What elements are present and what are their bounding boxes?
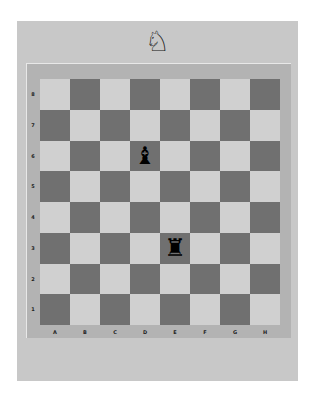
rank-label: 6 bbox=[29, 153, 37, 159]
file-label: E bbox=[160, 329, 190, 335]
rank-label: 4 bbox=[29, 214, 37, 220]
file-label: B bbox=[70, 329, 100, 335]
square-a3[interactable] bbox=[40, 233, 70, 264]
file-label: C bbox=[100, 329, 130, 335]
square-h7[interactable] bbox=[250, 110, 280, 141]
square-h1[interactable] bbox=[250, 294, 280, 325]
square-f2[interactable] bbox=[190, 264, 220, 295]
square-b3[interactable] bbox=[70, 233, 100, 264]
square-a5[interactable] bbox=[40, 171, 70, 202]
square-e3[interactable]: ♜ bbox=[160, 233, 190, 264]
square-f6[interactable] bbox=[190, 141, 220, 172]
square-c7[interactable] bbox=[100, 110, 130, 141]
square-d2[interactable] bbox=[130, 264, 160, 295]
square-e7[interactable] bbox=[160, 110, 190, 141]
square-f8[interactable] bbox=[190, 79, 220, 110]
square-b7[interactable] bbox=[70, 110, 100, 141]
square-e5[interactable] bbox=[160, 171, 190, 202]
square-a8[interactable] bbox=[40, 79, 70, 110]
square-g2[interactable] bbox=[220, 264, 250, 295]
square-e6[interactable] bbox=[160, 141, 190, 172]
file-label: D bbox=[130, 329, 160, 335]
square-g1[interactable] bbox=[220, 294, 250, 325]
board-frame: ♝♜ 87654321ABCDEFGH bbox=[26, 63, 291, 338]
square-e4[interactable] bbox=[160, 202, 190, 233]
square-h3[interactable] bbox=[250, 233, 280, 264]
square-e8[interactable] bbox=[160, 79, 190, 110]
rank-label: 3 bbox=[29, 245, 37, 251]
square-g6[interactable] bbox=[220, 141, 250, 172]
square-e1[interactable] bbox=[160, 294, 190, 325]
square-f5[interactable] bbox=[190, 171, 220, 202]
square-g7[interactable] bbox=[220, 110, 250, 141]
square-h4[interactable] bbox=[250, 202, 280, 233]
square-a1[interactable] bbox=[40, 294, 70, 325]
square-a4[interactable] bbox=[40, 202, 70, 233]
square-b4[interactable] bbox=[70, 202, 100, 233]
rank-label: 8 bbox=[29, 91, 37, 97]
square-a7[interactable] bbox=[40, 110, 70, 141]
black-bishop-icon[interactable]: ♝ bbox=[134, 144, 156, 168]
file-label: A bbox=[40, 329, 70, 335]
square-b2[interactable] bbox=[70, 264, 100, 295]
square-d8[interactable] bbox=[130, 79, 160, 110]
square-f1[interactable] bbox=[190, 294, 220, 325]
square-c3[interactable] bbox=[100, 233, 130, 264]
rank-label: 5 bbox=[29, 183, 37, 189]
square-h5[interactable] bbox=[250, 171, 280, 202]
square-c5[interactable] bbox=[100, 171, 130, 202]
square-c2[interactable] bbox=[100, 264, 130, 295]
square-h8[interactable] bbox=[250, 79, 280, 110]
square-a6[interactable] bbox=[40, 141, 70, 172]
square-g5[interactable] bbox=[220, 171, 250, 202]
square-e2[interactable] bbox=[160, 264, 190, 295]
square-f3[interactable] bbox=[190, 233, 220, 264]
square-g8[interactable] bbox=[220, 79, 250, 110]
square-c6[interactable] bbox=[100, 141, 130, 172]
game-panel: ♘ ♝♜ 87654321ABCDEFGH bbox=[17, 21, 298, 381]
chessboard: ♝♜ bbox=[40, 79, 280, 325]
file-label: H bbox=[250, 329, 280, 335]
square-b8[interactable] bbox=[70, 79, 100, 110]
square-f4[interactable] bbox=[190, 202, 220, 233]
square-d6[interactable]: ♝ bbox=[130, 141, 160, 172]
square-h6[interactable] bbox=[250, 141, 280, 172]
square-h2[interactable] bbox=[250, 264, 280, 295]
square-f7[interactable] bbox=[190, 110, 220, 141]
knight-icon: ♘ bbox=[17, 26, 298, 58]
square-b5[interactable] bbox=[70, 171, 100, 202]
rank-label: 2 bbox=[29, 276, 37, 282]
square-a2[interactable] bbox=[40, 264, 70, 295]
square-d3[interactable] bbox=[130, 233, 160, 264]
square-d4[interactable] bbox=[130, 202, 160, 233]
square-d7[interactable] bbox=[130, 110, 160, 141]
file-label: G bbox=[220, 329, 250, 335]
square-g3[interactable] bbox=[220, 233, 250, 264]
black-rook-icon[interactable]: ♜ bbox=[164, 236, 186, 260]
square-d5[interactable] bbox=[130, 171, 160, 202]
rank-label: 7 bbox=[29, 122, 37, 128]
square-c8[interactable] bbox=[100, 79, 130, 110]
square-c4[interactable] bbox=[100, 202, 130, 233]
square-c1[interactable] bbox=[100, 294, 130, 325]
square-d1[interactable] bbox=[130, 294, 160, 325]
square-b6[interactable] bbox=[70, 141, 100, 172]
file-label: F bbox=[190, 329, 220, 335]
square-g4[interactable] bbox=[220, 202, 250, 233]
rank-label: 1 bbox=[29, 306, 37, 312]
square-b1[interactable] bbox=[70, 294, 100, 325]
